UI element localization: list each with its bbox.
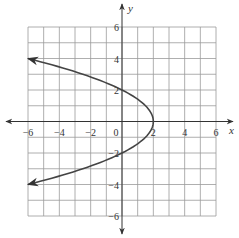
- axes: [6, 4, 233, 234]
- x-tick-label: 0: [114, 127, 119, 138]
- x-tick-label: 6: [214, 127, 219, 138]
- x-axis-label: x: [228, 124, 234, 136]
- x-tick-label: −6: [23, 127, 34, 138]
- y-tick-label: 4: [114, 54, 119, 65]
- y-tick-label: −4: [108, 180, 119, 191]
- y-axis-label: y: [127, 2, 133, 14]
- coordinate-plane: −6−4−20246−6−4−2246 x y: [0, 0, 239, 238]
- x-tick-label: −2: [85, 127, 96, 138]
- y-tick-label: 6: [114, 22, 119, 33]
- y-tick-label: −6: [108, 211, 119, 222]
- x-tick-label: −4: [54, 127, 65, 138]
- x-tick-label: 4: [182, 127, 187, 138]
